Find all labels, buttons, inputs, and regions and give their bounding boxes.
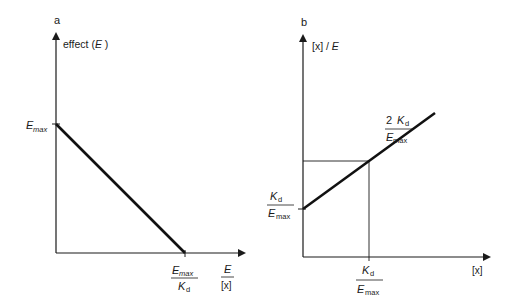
svg-text:[x]: [x]	[221, 280, 232, 291]
panel-a-x-axis-label: E [x]	[221, 263, 234, 291]
panel-a-y-tick-label: E max	[26, 119, 47, 134]
svg-text:d: d	[278, 195, 282, 204]
panel-b: b [x] / E K d E max 2 K d E max K d E ma…	[267, 16, 489, 297]
panel-a-data-line	[56, 124, 185, 253]
svg-text:max: max	[276, 212, 290, 221]
panel-a-y-axis-label: effect (E )	[63, 38, 108, 50]
figure: a effect (E ) E max E max K d E [x] b [x…	[0, 0, 510, 304]
panel-b-y-axis-label: [x] / E	[312, 40, 340, 52]
svg-text:E: E	[357, 283, 365, 295]
panel-a-label: a	[54, 14, 61, 26]
panel-b-label: b	[301, 16, 307, 28]
svg-text:K: K	[397, 114, 405, 126]
svg-text:E: E	[268, 207, 276, 219]
svg-text:K: K	[270, 190, 278, 202]
panel-b-guide-y-label: 2 K d E max	[385, 114, 413, 145]
svg-text:max: max	[365, 288, 379, 297]
panel-a-x-tick-label: E max K d	[171, 264, 198, 294]
panel-b-x-tick-label: K d E max	[356, 264, 383, 297]
svg-text:K: K	[178, 280, 186, 292]
svg-text:max: max	[33, 125, 47, 134]
svg-text:K: K	[362, 264, 370, 276]
panel-a: a effect (E ) E max E max K d E [x]	[26, 14, 244, 294]
svg-text:d: d	[186, 285, 190, 294]
panel-b-y-tick-label: K d E max	[267, 190, 294, 221]
svg-text:max: max	[179, 269, 193, 278]
svg-text:E: E	[224, 263, 232, 275]
svg-text:max: max	[393, 136, 407, 145]
svg-text:2: 2	[386, 114, 392, 126]
svg-text:d: d	[405, 119, 409, 128]
panel-b-x-axis-label: [x]	[472, 265, 483, 276]
svg-text:d: d	[370, 269, 374, 278]
